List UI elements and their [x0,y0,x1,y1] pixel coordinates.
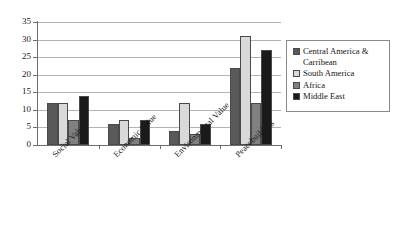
legend-item[interactable]: Central America & Carribean [293,46,385,67]
legend-item-label: Central America & Carribean [303,46,385,67]
y-tick-mark [33,92,38,93]
legend-item[interactable]: South America [293,68,385,79]
y-tick-mark [33,22,38,23]
legend-swatch-icon [293,82,300,89]
y-tick-mark [33,145,38,146]
x-tick-mark [99,145,100,149]
y-tick-mark [33,57,38,58]
bar-chart-figure: 05101520253035 Social ValueEconomic Valu… [0,0,394,239]
legend-swatch-icon [293,48,300,55]
chart-legend: Central America & CarribeanSouth America… [286,40,390,112]
y-tick-mark [33,40,38,41]
y-axis-tick-label: 20 [0,70,31,79]
x-tick-mark [281,145,282,149]
y-axis-tick-label: 30 [0,35,31,44]
bar [240,36,251,145]
legend-item[interactable]: Africa [293,80,385,91]
y-axis-tick-label: 35 [0,17,31,26]
legend-item-label: Middle East [303,91,345,102]
y-axis-tick-label: 0 [0,140,31,149]
legend-item-label: South America [303,68,354,79]
y-axis-tick-label: 25 [0,52,31,61]
y-axis-tick-label: 15 [0,87,31,96]
legend-item[interactable]: Middle East [293,91,385,102]
y-axis-tick-label: 5 [0,122,31,131]
bar [169,131,180,145]
y-axis-tick-label: 10 [0,105,31,114]
y-tick-mark [33,75,38,76]
y-tick-mark [33,110,38,111]
y-tick-mark [33,127,38,128]
legend-swatch-icon [293,93,300,100]
x-tick-mark [160,145,161,149]
legend-item-label: Africa [303,80,325,91]
bar [108,124,119,145]
legend-swatch-icon [293,70,300,77]
x-tick-mark [220,145,221,149]
bar [47,103,58,145]
